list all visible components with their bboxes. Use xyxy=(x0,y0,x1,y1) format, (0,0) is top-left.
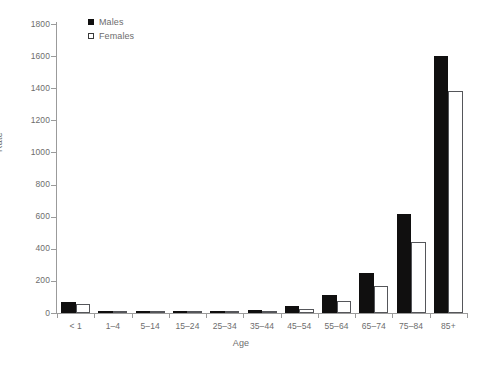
y-axis-tick-label: 1000 xyxy=(4,148,50,157)
y-axis-ticks: 020040060080010001200140016001800 xyxy=(0,0,50,370)
x-axis-tick-label: 35–44 xyxy=(243,322,280,331)
x-axis-tick xyxy=(281,313,282,318)
legend-swatch-females xyxy=(88,33,94,39)
x-axis-line xyxy=(56,313,468,314)
bar-female xyxy=(448,91,463,313)
x-axis-tick-label: 65–74 xyxy=(355,322,392,331)
bar-male xyxy=(322,295,337,313)
y-axis-tick-label: 0 xyxy=(4,309,50,318)
bar-male xyxy=(173,311,188,313)
y-axis-tick-label: 200 xyxy=(4,276,50,285)
y-axis-tick xyxy=(51,120,56,121)
x-axis-tick xyxy=(94,313,95,318)
bar-female xyxy=(113,311,128,313)
bar-male xyxy=(434,56,449,313)
x-axis-tick-label: 45–54 xyxy=(281,322,318,331)
x-axis-tick-label: 85+ xyxy=(430,322,467,331)
x-axis-tick-label: 25–34 xyxy=(206,322,243,331)
x-axis-tick xyxy=(355,313,356,318)
bar-male xyxy=(136,311,151,313)
bar-female xyxy=(337,301,352,313)
bar-chart: 020040060080010001200140016001800 < 11–4… xyxy=(0,0,482,370)
legend-swatch-males xyxy=(88,19,94,25)
y-axis-tick-label: 800 xyxy=(4,180,50,189)
legend-label: Males xyxy=(99,18,124,27)
y-axis-tick-label: 1800 xyxy=(4,20,50,29)
plot-area xyxy=(57,24,467,313)
y-axis-tick-label: 1200 xyxy=(4,116,50,125)
legend-item: Females xyxy=(88,30,134,42)
y-axis-tick-label: 1400 xyxy=(4,84,50,93)
bar-female xyxy=(262,311,277,313)
y-axis-tick xyxy=(51,56,56,57)
x-axis-tick-label: 75–84 xyxy=(392,322,429,331)
bar-female xyxy=(76,304,91,313)
x-axis-tick xyxy=(392,313,393,318)
y-axis-tick xyxy=(51,313,56,314)
bar-male xyxy=(285,306,300,313)
legend: MalesFemales xyxy=(88,16,134,44)
bar-female xyxy=(299,309,314,313)
bar-female xyxy=(411,242,426,313)
bar-male xyxy=(248,310,263,313)
y-axis-tick-label: 1600 xyxy=(4,52,50,61)
x-axis-tick xyxy=(430,313,431,318)
bar-male xyxy=(61,302,76,313)
y-axis-tick xyxy=(51,88,56,89)
x-axis-tick xyxy=(318,313,319,318)
x-axis-title: Age xyxy=(0,338,482,348)
y-axis-tick xyxy=(51,281,56,282)
x-axis-tick-label: < 1 xyxy=(57,322,94,331)
bar-female xyxy=(187,311,202,313)
legend-item: Males xyxy=(88,16,134,28)
y-axis-tick-label: 400 xyxy=(4,244,50,253)
y-axis-title: Rate xyxy=(0,132,4,152)
x-axis-tick-label: 55–64 xyxy=(318,322,355,331)
x-axis-tick xyxy=(57,313,58,318)
bar-male xyxy=(98,311,113,313)
bar-male xyxy=(359,273,374,313)
x-axis-tick-label: 5–14 xyxy=(132,322,169,331)
x-axis-tick xyxy=(243,313,244,318)
y-axis-tick xyxy=(51,185,56,186)
bar-male xyxy=(397,214,412,313)
bar-female xyxy=(225,311,240,313)
bar-male xyxy=(210,311,225,313)
bar-female xyxy=(150,311,165,313)
legend-label: Females xyxy=(99,32,134,41)
x-axis-tick xyxy=(132,313,133,318)
x-axis-tick-label: 1–4 xyxy=(94,322,131,331)
x-axis-tick xyxy=(169,313,170,318)
x-axis-tick-label: 15–24 xyxy=(169,322,206,331)
x-axis-tick xyxy=(206,313,207,318)
x-axis-tick xyxy=(467,313,468,318)
y-axis-tick xyxy=(51,152,56,153)
y-axis-tick xyxy=(51,24,56,25)
bar-female xyxy=(374,286,389,313)
y-axis-tick-label: 600 xyxy=(4,212,50,221)
y-axis-tick xyxy=(51,217,56,218)
y-axis-tick xyxy=(51,249,56,250)
